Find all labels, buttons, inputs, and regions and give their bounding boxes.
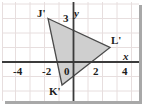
x-tick-label-zero: 0 <box>64 66 70 77</box>
y-axis-label: y <box>74 8 79 19</box>
vertex-label-l-prime: L' <box>111 35 121 46</box>
plot-card: -4 -2 0 2 4 3 y x J' L' K' <box>2 2 139 101</box>
x-tick-label-neg2: -2 <box>42 66 51 77</box>
x-tick-label-neg4: -4 <box>13 66 22 77</box>
y-tick-label-3: 3 <box>63 13 69 24</box>
axis-lines <box>2 2 139 101</box>
coordinate-plane-figure: -4 -2 0 2 4 3 y x J' L' K' <box>0 0 146 109</box>
vertex-label-j-prime: J' <box>37 8 46 19</box>
x-tick-label-2: 2 <box>93 66 99 77</box>
vertex-label-k-prime: K' <box>49 86 61 97</box>
x-axis-label: x <box>123 51 129 62</box>
x-tick-label-4: 4 <box>122 66 128 77</box>
